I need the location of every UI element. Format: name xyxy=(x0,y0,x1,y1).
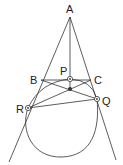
center-dot xyxy=(68,87,72,91)
ellipse-curve xyxy=(26,99,98,157)
label-c: C xyxy=(94,74,102,86)
label-a: A xyxy=(66,3,74,15)
line-a-right xyxy=(70,17,116,160)
label-p: P xyxy=(60,65,67,77)
label-q: Q xyxy=(102,95,111,107)
point-r-dot xyxy=(27,107,29,109)
point-q-dot xyxy=(96,98,98,100)
point-p-dot xyxy=(69,78,71,80)
label-b: B xyxy=(30,74,37,86)
label-r: R xyxy=(16,103,24,115)
geometry-diagram: A B C P Q R xyxy=(0,0,123,165)
line-a-left xyxy=(9,17,70,162)
